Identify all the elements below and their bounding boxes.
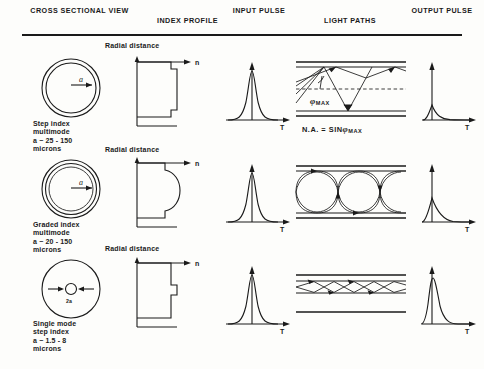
fiber-caption-step-index-multimode: Step index multimode a ~ 25 - 150 micron…	[33, 120, 72, 154]
index-axis-label-row-2: n	[195, 160, 199, 167]
radial-distance-label-row-2: Radial distance	[105, 146, 159, 153]
time-axis-label-output-row-2: T	[465, 226, 470, 233]
theta-max-label-row-1: φMAX	[310, 96, 330, 106]
core-radius-label-row-2: a	[79, 178, 83, 187]
cross-section-graded-index-multimode: a	[40, 158, 102, 220]
index-axis-label-row-1: n	[195, 59, 199, 66]
core-radius-label-row-1: a	[79, 75, 83, 84]
column-header-output-pulse: OUTPUT PULSE	[408, 6, 476, 15]
numerical-aperture-equation: N.A. = SINφMAX	[302, 124, 362, 134]
column-header-input-pulse: INPUT PULSE	[225, 6, 293, 15]
column-header-cross-sectional-view: CROSS SECTIONAL VIEW	[22, 6, 137, 15]
column-header-light-paths: LIGHT PATHS	[295, 16, 405, 25]
time-axis-label-input-row-3: T	[280, 328, 285, 335]
radial-distance-label-row-1: Radial distance	[105, 42, 159, 49]
fiber-caption-graded-index-multimode: Graded index multimode a ~ 20 - 150 micr…	[33, 221, 80, 255]
input-pulse-step-index-multimode: T	[222, 58, 294, 132]
column-header-index-profile: INDEX PROFILE	[140, 16, 235, 25]
time-axis-label-output-row-3: T	[465, 328, 470, 335]
index-axis-label-row-3: n	[195, 260, 199, 267]
radial-distance-label-row-3: Radial distance	[105, 245, 159, 252]
light-paths-single-mode-step-index	[296, 272, 406, 316]
input-pulse-graded-index-multimode: T	[222, 160, 294, 234]
cross-section-step-index-multimode: a	[40, 57, 102, 119]
output-pulse-single-mode-step-index: T	[420, 262, 482, 336]
input-pulse-single-mode-step-index: T	[222, 262, 294, 336]
core-diameter-label-row-3: 2a	[66, 298, 72, 304]
light-paths-graded-index-multimode	[296, 163, 406, 221]
figure-root: CROSS SECTIONAL VIEW INDEX PROFILE INPUT…	[0, 0, 484, 369]
fiber-caption-single-mode-step-index: Single mode step index a ~ 1.5 - 8 micro…	[33, 320, 76, 354]
output-pulse-graded-index-multimode: T	[420, 160, 482, 234]
time-axis-label-input-row-2: T	[280, 226, 285, 233]
index-profile-graded-index-multimode: n	[133, 153, 225, 231]
index-profile-step-index-multimode: n	[133, 52, 225, 130]
header-divider-rule	[22, 34, 462, 36]
index-profile-single-mode-step-index: n	[133, 253, 225, 331]
output-pulse-step-index-multimode: T	[420, 58, 482, 132]
light-paths-step-index-multimode	[296, 58, 406, 120]
time-axis-label-input-row-1: T	[280, 124, 285, 131]
cross-section-single-mode-step-index: 2a	[40, 258, 102, 320]
time-axis-label-output-row-1: T	[465, 124, 470, 131]
